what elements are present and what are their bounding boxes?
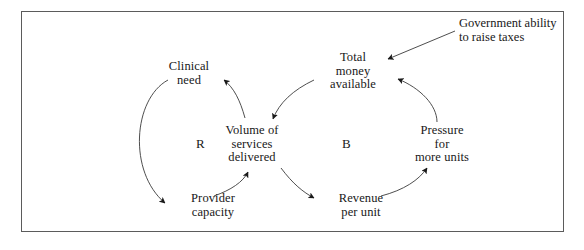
node-revenue-per-unit: Revenue per unit	[325, 192, 397, 219]
link-government-to-total-money	[388, 31, 455, 59]
node-total-money-line-3: available	[316, 78, 390, 92]
link-pressure-to-total-money	[398, 79, 437, 122]
link-clinical-need-to-provider	[139, 80, 168, 203]
link-volume-to-revenue	[281, 168, 314, 198]
node-volume-line-3: delivered	[209, 151, 295, 165]
external-input-government-line-2: to raise taxes	[459, 30, 579, 44]
node-pressure-for-more-units: Pressure for more units	[404, 124, 480, 165]
node-clinical-need-line-1: Clinical	[152, 60, 226, 74]
node-provider-capacity: Provider capacity	[177, 192, 249, 219]
node-total-money-line-2: money	[316, 65, 390, 79]
node-revenue-line-2: per unit	[325, 206, 397, 220]
loop-label-reinforcing: R	[196, 137, 205, 151]
node-pressure-line-2: for	[404, 138, 480, 152]
link-volume-to-clinical-need	[224, 80, 245, 118]
node-volume-of-services-delivered: Volume of services delivered	[209, 124, 295, 165]
node-pressure-line-3: more units	[404, 151, 480, 165]
node-clinical-need-line-2: need	[152, 74, 226, 88]
node-volume-line-1: Volume of	[209, 124, 295, 138]
diagram-canvas: Clinical need Total money available Volu…	[0, 0, 584, 250]
external-input-government-ability: Government ability to raise taxes	[459, 16, 579, 44]
node-pressure-line-1: Pressure	[404, 124, 480, 138]
link-total-money-to-volume	[273, 80, 314, 119]
node-revenue-line-1: Revenue	[325, 192, 397, 206]
node-volume-line-2: services	[209, 138, 295, 152]
loop-label-balancing: B	[342, 137, 351, 151]
node-clinical-need: Clinical need	[152, 60, 226, 87]
external-input-government-line-1: Government ability	[459, 16, 579, 30]
node-total-money-line-1: Total	[316, 51, 390, 65]
node-total-money-available: Total money available	[316, 51, 390, 92]
node-provider-line-1: Provider	[177, 192, 249, 206]
node-provider-line-2: capacity	[177, 206, 249, 220]
